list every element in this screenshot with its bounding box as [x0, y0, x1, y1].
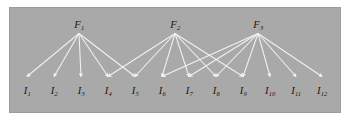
item-label-base: I — [159, 85, 163, 96]
edge-layer — [27, 34, 322, 77]
item-label-i4: I4 — [105, 86, 112, 97]
factor-label-base: F — [74, 19, 80, 30]
item-label-subscript: 2 — [54, 90, 57, 97]
item-label-i11: I11 — [291, 86, 301, 97]
item-label-base: I — [291, 85, 295, 96]
item-label-base: I — [51, 85, 55, 96]
item-label-base: I — [24, 85, 28, 96]
item-label-i6: I6 — [159, 86, 166, 97]
item-label-i10: I10 — [265, 86, 275, 97]
item-label-i1: I1 — [24, 86, 31, 97]
edge-f3-i8 — [216, 34, 258, 77]
item-label-subscript: 6 — [162, 90, 165, 97]
item-label-i9: I9 — [240, 86, 247, 97]
item-label-i12: I12 — [317, 86, 327, 97]
item-label-base: I — [265, 85, 269, 96]
edge-f1-i5 — [79, 34, 135, 77]
item-label-i5: I5 — [132, 86, 139, 97]
item-label-base: I — [105, 85, 109, 96]
item-label-subscript: 7 — [189, 90, 192, 97]
edge-f1-i4 — [79, 34, 108, 77]
item-label-subscript: 5 — [135, 90, 138, 97]
item-label-subscript: 1 — [27, 90, 30, 97]
edge-f1-i1 — [27, 34, 79, 77]
item-label-i8: I8 — [213, 86, 220, 97]
item-label-base: I — [240, 85, 244, 96]
item-label-base: I — [186, 85, 190, 96]
item-label-base: I — [78, 85, 82, 96]
item-label-base: I — [132, 85, 136, 96]
item-label-subscript: 12 — [321, 90, 328, 97]
factor-label-subscript: 3 — [260, 24, 263, 31]
edge-f1-i2 — [54, 34, 79, 77]
edge-f1-i3 — [79, 34, 81, 77]
factor-label-subscript: 1 — [81, 24, 84, 31]
item-label-subscript: 8 — [216, 90, 219, 97]
item-label-subscript: 3 — [81, 90, 84, 97]
item-label-base: I — [317, 85, 321, 96]
factor-label-subscript: 2 — [177, 24, 180, 31]
item-label-base: I — [213, 85, 217, 96]
factor-label-f1: F1 — [74, 20, 84, 31]
figure-canvas: F1F2F3I1I2I3I4I5I6I7I8I9I10I11I12 — [0, 0, 350, 125]
edge-f3-i7 — [189, 34, 258, 77]
item-label-subscript: 10 — [269, 90, 276, 97]
item-label-subscript: 4 — [108, 90, 111, 97]
item-label-subscript: 11 — [295, 90, 301, 97]
item-label-i2: I2 — [51, 86, 58, 97]
factor-label-base: F — [253, 19, 259, 30]
factor-label-f2: F2 — [170, 20, 180, 31]
item-label-i3: I3 — [78, 86, 85, 97]
item-label-i7: I7 — [186, 86, 193, 97]
factor-label-f3: F3 — [253, 20, 263, 31]
edge-f3-i9 — [243, 34, 258, 77]
item-label-subscript: 9 — [243, 90, 246, 97]
factor-label-base: F — [170, 19, 176, 30]
